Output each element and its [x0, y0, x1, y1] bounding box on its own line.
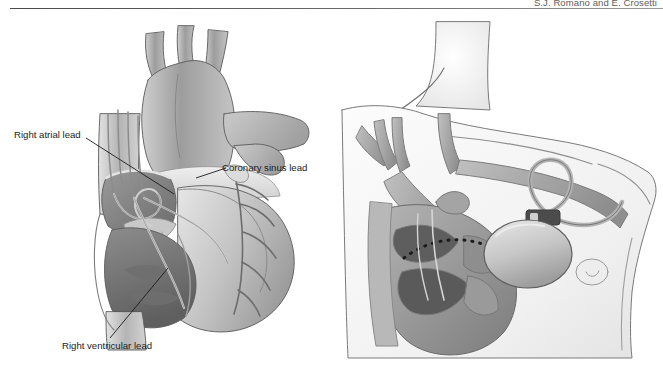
callout-coronary-sinus-lead: Coronary sinus lead [222, 163, 307, 173]
torso-illustration [342, 22, 656, 358]
left-ventricle [178, 186, 294, 332]
generator-can [484, 220, 572, 288]
running-head: S.J. Romano and E. Crosetti [534, 0, 657, 8]
heart-illustration [94, 26, 309, 350]
callout-right-atrial-lead: Right atrial lead [14, 130, 81, 140]
figure-root: S.J. Romano and E. Crosetti [0, 0, 663, 367]
header-rule [10, 8, 663, 9]
neck [416, 22, 490, 110]
torso-implant-panel [340, 14, 658, 359]
callout-right-ventricular-lead: Right ventricular lead [62, 341, 152, 351]
nipple [576, 259, 608, 285]
heart-cutaway-panel [28, 18, 328, 348]
